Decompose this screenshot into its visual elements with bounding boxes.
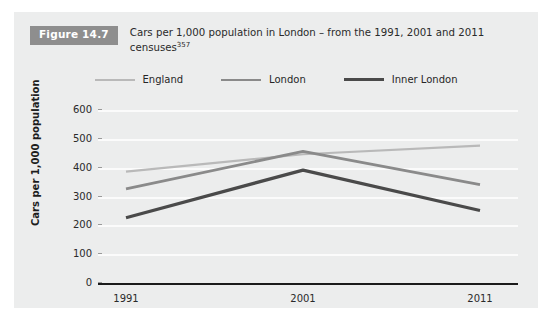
figure-panel: Figure 14.7 Cars per 1,000 population in…	[14, 12, 538, 308]
series-line-england	[126, 146, 480, 172]
chart-plot-area: Cars per 1,000 population 60050040030020…	[14, 12, 538, 308]
chart-series-layer	[14, 12, 538, 308]
